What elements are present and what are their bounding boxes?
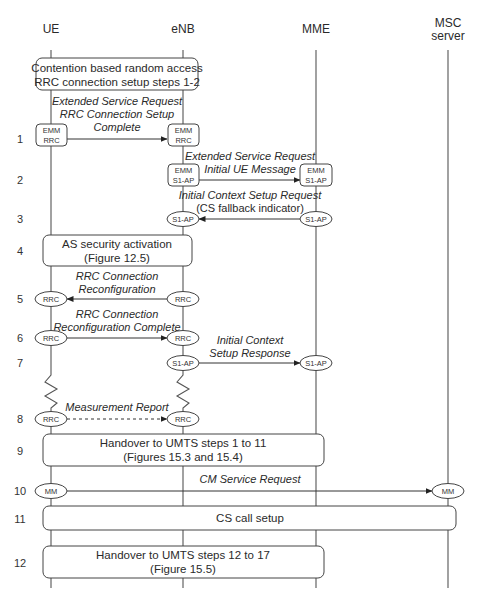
- step-number: 9: [17, 445, 23, 457]
- message-label: CM Service Request: [200, 473, 302, 485]
- process-box-text: (Figure 12.5): [84, 252, 150, 264]
- step-number: 4: [17, 245, 23, 257]
- entity-header-msc-line2: server: [431, 29, 464, 43]
- protocol-label: MM: [442, 487, 455, 496]
- message-label: Complete: [93, 121, 140, 133]
- process-box-as-security: AS security activation (Figure 12.5): [43, 235, 192, 266]
- message-label: Reconfiguration Complete: [53, 321, 180, 333]
- protocol-label: EMM: [307, 166, 325, 175]
- process-box-text: (Figure 15.5): [150, 563, 216, 575]
- message-step-3: Initial Context Setup Request (CS fallba…: [167, 189, 332, 227]
- protocol-label: RRC: [43, 136, 60, 145]
- process-box-text: CS call setup: [216, 512, 284, 524]
- process-box-cs-call-setup: CS call setup: [43, 506, 456, 530]
- step-number: 11: [14, 513, 25, 525]
- step-number: 3: [17, 213, 23, 225]
- protocol-label: EMM: [175, 166, 193, 175]
- cs-fallback-sequence-diagram: UE eNB MME MSC server 1 2 3 4 5 6 7 8 9 …: [0, 0, 482, 599]
- step-number: 12: [14, 557, 26, 569]
- message-label: RRC Connection Setup: [60, 108, 174, 120]
- protocol-label: MM: [45, 487, 58, 496]
- message-label: Initial UE Message: [204, 163, 296, 175]
- message-step-5: RRC Connection Reconfiguration RRC RRC: [35, 270, 199, 307]
- step-number: 2: [17, 174, 23, 186]
- process-box-text: AS security activation: [62, 238, 172, 250]
- protocol-label: S1-AP: [173, 176, 195, 185]
- step-number: 5: [17, 293, 23, 305]
- message-label: Extended Service Request: [52, 95, 183, 107]
- step-number: 7: [17, 357, 23, 369]
- process-box-handover-1-11: Handover to UMTS steps 1 to 11 (Figures …: [43, 434, 324, 466]
- process-box-text: (Figures 15.3 and 15.4): [123, 451, 243, 463]
- entity-header-mme: MME: [302, 22, 330, 36]
- message-label: Initial Context: [217, 334, 285, 346]
- step-number: 6: [17, 332, 23, 344]
- protocol-label: S1-AP: [305, 176, 327, 185]
- message-step-1: Extended Service Request RRC Connection …: [36, 95, 199, 146]
- process-box-text: Contention based random access: [31, 62, 203, 74]
- process-box-random-access: Contention based random access RRC conne…: [31, 58, 203, 90]
- protocol-label: RRC: [43, 295, 60, 304]
- message-step-10: CM Service Request MM MM: [35, 473, 464, 499]
- protocol-label: S1-AP: [305, 359, 327, 368]
- entity-header-ue: UE: [43, 22, 60, 36]
- message-label: (CS fallback indicator): [196, 202, 304, 214]
- protocol-label: RRC: [175, 295, 192, 304]
- message-step-6: RRC Connection Reconfiguration Complete …: [35, 308, 199, 346]
- message-step-8: Measurement Report RRC RRC: [35, 401, 199, 427]
- step-number: 1: [17, 133, 23, 145]
- entity-header-enb: eNB: [171, 22, 194, 36]
- protocol-label: RRC: [175, 136, 192, 145]
- message-step-2: Extended Service Request Initial UE Mess…: [168, 150, 332, 186]
- protocol-label: S1-AP: [305, 215, 327, 224]
- process-box-text: Handover to UMTS steps 1 to 11: [100, 437, 267, 449]
- protocol-label: EMM: [43, 126, 61, 135]
- message-label: Reconfiguration: [78, 283, 155, 295]
- message-label: Measurement Report: [65, 401, 169, 413]
- message-label: Initial Context Setup Request: [179, 189, 322, 201]
- protocol-label: RRC: [43, 415, 60, 424]
- entity-headers: UE eNB MME MSC server: [43, 16, 465, 43]
- message-label: RRC Connection: [76, 308, 159, 320]
- process-box-handover-12-17: Handover to UMTS steps 12 to 17 (Figure …: [43, 546, 324, 578]
- process-box-text: RRC connection setup steps 1-2: [34, 76, 200, 88]
- message-label: Extended Service Request: [185, 150, 316, 162]
- protocol-label: RRC: [175, 415, 192, 424]
- step-numbers: 1 2 3 4 5 6 7 8 9 10 11 12: [14, 133, 26, 569]
- protocol-label: RRC: [175, 334, 192, 343]
- protocol-label: S1-AP: [172, 215, 194, 224]
- step-number: 8: [17, 413, 23, 425]
- entity-header-msc-line1: MSC: [435, 16, 462, 30]
- message-label: Setup Response: [209, 347, 290, 359]
- step-number: 10: [14, 485, 26, 497]
- protocol-label: EMM: [175, 126, 193, 135]
- process-box-text: Handover to UMTS steps 12 to 17: [96, 549, 270, 561]
- message-label: RRC Connection: [76, 270, 159, 282]
- protocol-label: S1-AP: [172, 359, 194, 368]
- protocol-label: RRC: [43, 334, 60, 343]
